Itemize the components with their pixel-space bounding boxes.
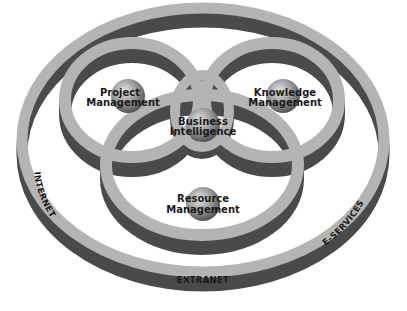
resource-label-line1: Resource: [177, 193, 229, 204]
center-label-line2: Intelligence: [170, 126, 237, 137]
extranet-label: EXTRANET: [177, 275, 229, 285]
project-label-line2: Management: [86, 97, 160, 108]
resource-label-line2: Management: [166, 204, 240, 215]
diagram-canvas: Project Management Knowledge Management …: [0, 0, 407, 311]
knowledge-label-line2: Management: [248, 97, 322, 108]
venn-ring-diagram: Project Management Knowledge Management …: [0, 0, 407, 311]
